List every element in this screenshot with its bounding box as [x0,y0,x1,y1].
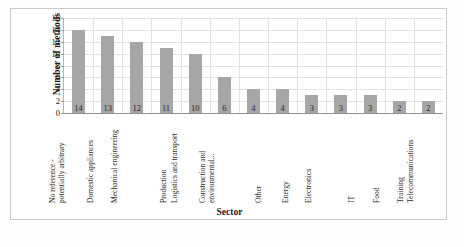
bar-slot: 14 [64,18,93,113]
bar-slot: 4 [239,18,268,113]
x-axis-label-slot: Food [355,117,384,205]
bar-value-label: 6 [218,104,231,113]
bar[interactable]: 11 [160,48,173,113]
bar-value-label: 3 [305,104,318,113]
bar-slot: 3 [356,18,385,113]
bar-slot: 12 [122,18,151,113]
y-axis-tick-label: 8 [56,61,60,70]
y-axis-tick-label: 14 [52,26,61,35]
bar-value-label: 4 [276,104,289,113]
y-axis-tick-label: 0 [56,109,60,118]
y-axis-tick-label: 10 [52,49,61,58]
y-axis-tick-label: 2 [56,97,60,106]
x-axis-label-slot: Other [238,117,267,205]
bar-slot: 2 [385,18,414,113]
x-axis-label-slot: Electronics [296,117,325,205]
bar-slot: 13 [93,18,122,113]
bar[interactable]: 13 [101,36,114,113]
bar-value-label: 2 [393,104,406,113]
y-axis-tick-label: 4 [56,85,60,94]
bar-slot: 10 [181,18,210,113]
x-axis-label-slot: IT [325,117,354,205]
bar-slot: 4 [268,18,297,113]
bar-value-label: 2 [422,104,435,113]
bar[interactable]: 4 [247,89,260,113]
bar-value-label: 10 [189,104,202,113]
x-axis-label-slot: Telecommunications [413,117,442,205]
bar-value-label: 3 [364,104,377,113]
bar[interactable]: 12 [130,42,143,113]
y-axis-tick-mark [61,113,64,114]
bar-value-label: 4 [247,104,260,113]
y-axis-tick-label: 12 [52,38,61,47]
bar-slot: 6 [210,18,239,113]
bar-value-label: 13 [101,104,114,113]
bar-series: 141312111064433322 [64,18,443,113]
x-axis-label-slot: Mechanical engineering [121,117,150,205]
bar-value-label: 3 [334,104,347,113]
x-axis-title: Sector [11,207,448,217]
bar-slot: 3 [297,18,326,113]
bar[interactable]: 14 [72,30,85,113]
bar[interactable]: 4 [276,89,289,113]
chart-frame: Number of methods 1614121086420 14131211… [10,8,447,220]
y-axis-tick-label: 16 [52,14,61,23]
bar[interactable]: 2 [422,101,435,113]
bar[interactable]: 3 [334,95,347,113]
plot-area: 1614121086420 141312111064433322 [63,18,443,114]
bar[interactable]: 10 [189,54,202,113]
x-axis-label-slot: Construction andenvironmental... [209,117,238,205]
bar-slot: 2 [414,18,443,113]
bar-slot: 11 [151,18,180,113]
bar-value-label: 12 [130,104,143,113]
bar-value-label: 14 [72,104,85,113]
figure: Number of methods 1614121086420 14131211… [0,0,464,247]
bar-value-label: 11 [160,104,173,113]
bar[interactable]: 6 [218,77,231,113]
bar-slot: 3 [326,18,355,113]
bar[interactable]: 2 [393,101,406,113]
x-axis-tick-label: Telecommunications [406,140,464,203]
x-axis-label-slot: Energy [267,117,296,205]
bar[interactable]: 3 [305,95,318,113]
x-axis-tick-labels: No reference -potentially arbitraryDomes… [63,117,442,205]
y-axis-tick-label: 6 [56,73,60,82]
bar[interactable]: 3 [364,95,377,113]
